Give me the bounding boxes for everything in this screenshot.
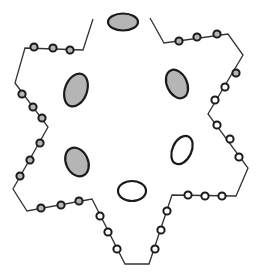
bead-circle (201, 192, 208, 199)
bead-circle (157, 226, 164, 233)
bead-circle (75, 197, 82, 204)
bead-circle (66, 46, 73, 53)
bead-circle (38, 114, 45, 121)
star-membrane-diagram (0, 0, 265, 277)
bead-circle (30, 43, 37, 50)
bead-circle (49, 44, 56, 51)
bead-circle (18, 90, 25, 97)
bead-circle (226, 135, 233, 142)
bead-circle (163, 207, 170, 214)
bead-circle (213, 121, 220, 128)
bead-circle (96, 212, 103, 219)
bead-circle (221, 83, 228, 90)
bead-circle (184, 191, 191, 198)
bead-circle (151, 245, 158, 252)
bead-circle (29, 103, 36, 110)
bead-circle (26, 156, 33, 163)
bead-circle (36, 139, 43, 146)
bead-circle (218, 192, 225, 199)
bead-circle (235, 153, 242, 160)
bead-circle (57, 201, 64, 208)
bead-circle (175, 37, 182, 44)
bead-circle (193, 33, 200, 40)
bead-circle (113, 245, 120, 252)
oval-top (108, 14, 138, 31)
bead-circle (211, 96, 218, 103)
oval-bottom (118, 181, 146, 201)
bead-circle (213, 30, 220, 37)
bead-circle (16, 172, 23, 179)
bead-circle (104, 228, 111, 235)
bead-circle (232, 69, 239, 76)
bead-circle (37, 204, 44, 211)
